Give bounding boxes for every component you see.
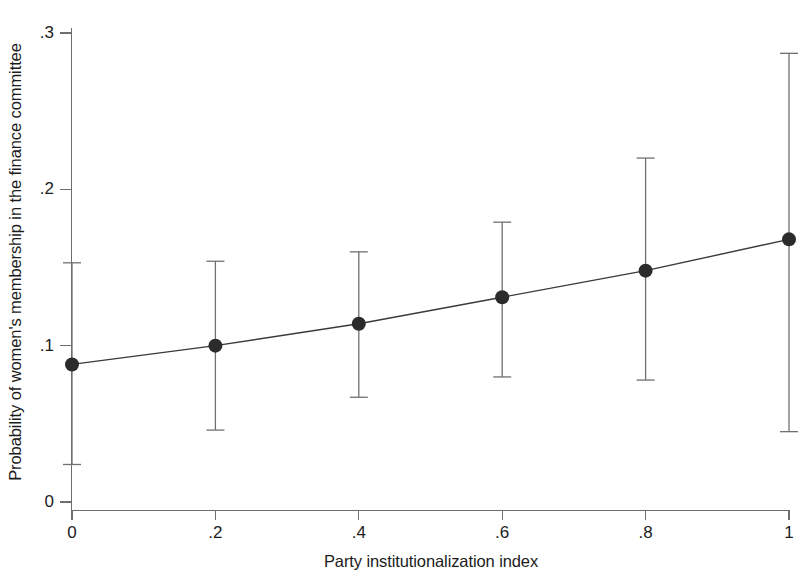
x-axis-title: Party institutionalization index <box>72 552 790 571</box>
data-point-marker <box>208 339 222 353</box>
data-point-marker <box>352 317 366 331</box>
data-point-marker <box>65 357 79 371</box>
series-line <box>72 239 789 364</box>
data-point-marker <box>782 232 796 246</box>
data-point-marker <box>639 264 653 278</box>
error-bars-group <box>63 53 798 464</box>
data-point-marker <box>495 290 509 304</box>
